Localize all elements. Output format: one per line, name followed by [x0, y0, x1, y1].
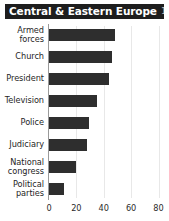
bar-row: Armedforces	[0, 24, 169, 46]
plot-area: ArmedforcesChurchPresidentTelevisionPoli…	[0, 22, 169, 221]
bar	[49, 161, 76, 173]
bar-category-label: Church	[0, 52, 44, 61]
chart-title: Central & Eastern Europe	[9, 6, 157, 17]
bar-row: Judiciary	[0, 134, 169, 156]
bar-row: Church	[0, 46, 169, 68]
bar-category-label-line: congress	[0, 167, 44, 176]
chart-card: Central & Eastern Europe 1997–98 Armedfo…	[0, 0, 169, 221]
bar-category-label: President	[0, 74, 44, 83]
bar-category-label-line: Police	[0, 118, 44, 127]
bar-category-label: Armedforces	[0, 26, 44, 44]
bar-track	[49, 161, 76, 173]
bar-track	[49, 139, 87, 151]
x-tick-label-80: 80	[153, 204, 163, 212]
bar-track	[49, 95, 97, 107]
bar-row: Police	[0, 112, 169, 134]
bar-category-label-line: President	[0, 74, 44, 83]
bar-category-label: Judiciary	[0, 140, 44, 149]
bar-rows: ArmedforcesChurchPresidentTelevisionPoli…	[0, 24, 169, 200]
x-tick-label-60: 60	[126, 204, 136, 212]
bar-category-label-line: forces	[0, 35, 44, 44]
x-axis: 020406080	[0, 200, 169, 220]
bar	[49, 183, 64, 195]
chart-period-label: 1997–98	[161, 7, 164, 16]
bar	[49, 117, 89, 129]
bar-category-label: Police	[0, 118, 44, 127]
bar-category-label-line: Church	[0, 52, 44, 61]
bar-row: Politicalparties	[0, 178, 169, 200]
bar	[49, 51, 112, 63]
x-tick-label-40: 40	[99, 204, 109, 212]
bar-row: President	[0, 68, 169, 90]
bar	[49, 29, 115, 41]
bar-category-label: Television	[0, 96, 44, 105]
chart-title-bar: Central & Eastern Europe 1997–98	[5, 4, 164, 19]
bar-track	[49, 117, 89, 129]
x-tick-label-20: 20	[71, 204, 81, 212]
bar-category-label-line: Judiciary	[0, 140, 44, 149]
bar-track	[49, 183, 64, 195]
bar-track	[49, 51, 112, 63]
bar	[49, 73, 109, 85]
bar-category-label-line: parties	[0, 189, 44, 198]
bar-category-label: Nationalcongress	[0, 158, 44, 176]
bar	[49, 95, 97, 107]
x-tick-label-0: 0	[46, 204, 51, 212]
bar	[49, 139, 87, 151]
bar-row: Nationalcongress	[0, 156, 169, 178]
bar-row: Television	[0, 90, 169, 112]
bar-track	[49, 73, 109, 85]
bar-category-label: Politicalparties	[0, 180, 44, 198]
bar-track	[49, 29, 115, 41]
bar-category-label-line: Television	[0, 96, 44, 105]
